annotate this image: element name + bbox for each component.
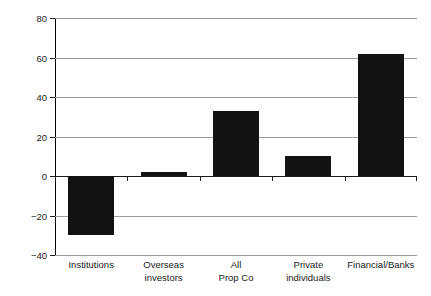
- x-axis-tick: [200, 176, 201, 181]
- bar: [213, 111, 259, 176]
- bar-series: [55, 18, 417, 255]
- bar: [358, 54, 404, 176]
- bar: [285, 156, 331, 176]
- y-axis-tick-label: 80: [36, 13, 47, 24]
- bar-chart: Differential (bps) 806040200−20−40 Insti…: [0, 0, 431, 296]
- gridline: [55, 255, 417, 256]
- x-axis-tick: [55, 176, 56, 181]
- y-axis-tick: [50, 255, 55, 256]
- x-axis-category-label: Financial/Banks: [333, 259, 429, 272]
- x-axis-tick: [416, 176, 417, 181]
- plot-area: 806040200−20−40: [55, 18, 417, 255]
- x-axis-tick: [272, 176, 273, 181]
- y-axis-tick-label: 20: [36, 131, 47, 142]
- x-axis-tick: [127, 176, 128, 181]
- y-axis-tick-label: 60: [36, 52, 47, 63]
- y-axis-tick-label: −20: [31, 210, 47, 221]
- y-axis-tick-label: 40: [36, 92, 47, 103]
- bar: [68, 176, 114, 235]
- y-axis-tick-label: 0: [42, 171, 47, 182]
- x-axis-tick: [345, 176, 346, 181]
- bar: [141, 172, 187, 176]
- x-axis-labels: InstitutionsOverseasinvestorsAllProp CoP…: [55, 259, 417, 295]
